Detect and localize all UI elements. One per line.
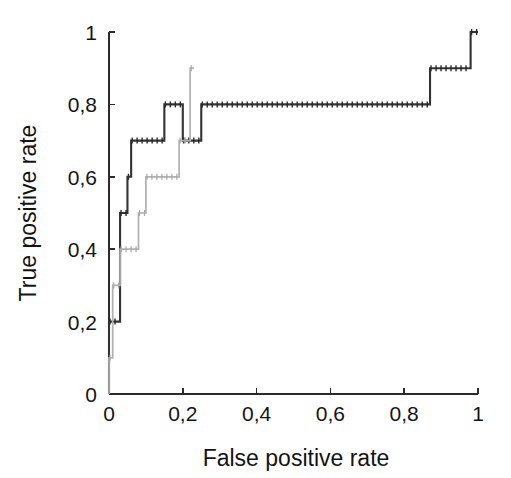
x-tick-label: 0,4 <box>242 402 272 425</box>
y-tick-label: 0 <box>85 383 97 406</box>
roc-curve-light <box>109 65 194 394</box>
y-tick-label: 0,6 <box>68 166 97 189</box>
y-tick-label: 0,4 <box>68 238 98 261</box>
y-axis-title: True positive rate <box>15 125 41 302</box>
roc-curve-dark-path <box>109 32 478 394</box>
y-tick-label: 0,2 <box>68 311 97 334</box>
y-tick-label: 0,8 <box>68 93 97 116</box>
x-tick-label: 1 <box>472 402 484 425</box>
roc-series-layer <box>109 29 478 394</box>
x-tick-label: 0 <box>103 402 115 425</box>
roc-chart-figure: 00,20,40,60,81 00,20,40,60,81 False posi… <box>0 0 511 478</box>
roc-curve-light-path <box>109 68 194 394</box>
roc-chart-svg: 00,20,40,60,81 00,20,40,60,81 False posi… <box>0 0 511 478</box>
y-axis-ticks: 00,20,40,60,81 <box>68 21 115 406</box>
x-axis-title: False positive rate <box>203 445 390 471</box>
roc-curve-dark <box>109 29 478 394</box>
x-tick-label: 0,8 <box>390 402 419 425</box>
plot-axes <box>109 32 478 394</box>
x-tick-label: 0,6 <box>316 402 345 425</box>
y-tick-label: 1 <box>85 21 97 44</box>
x-tick-label: 0,2 <box>168 402 197 425</box>
